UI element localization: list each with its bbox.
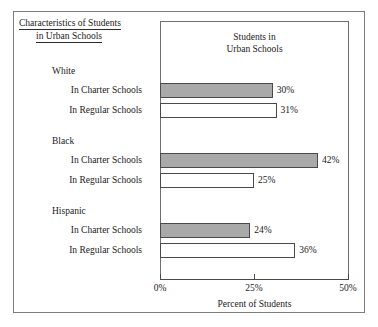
plot-heading-line-2: Urban Schools bbox=[226, 44, 282, 54]
plot-heading: Students in Urban Schools bbox=[161, 31, 348, 55]
bar-black-charter bbox=[160, 153, 318, 168]
bar-value-black-regular: 25% bbox=[258, 175, 275, 186]
bar-hispanic-charter bbox=[160, 223, 250, 238]
x-tick-50pct bbox=[348, 274, 349, 280]
bar-value-white-charter: 30% bbox=[277, 85, 294, 96]
bar-label-black-regular: In Regular Schools bbox=[69, 175, 142, 186]
x-tick-0pct bbox=[160, 274, 161, 280]
plot-area: Students in Urban Schools bbox=[160, 21, 349, 280]
group-label-hispanic: Hispanic bbox=[52, 206, 86, 217]
plot-heading-line-1: Students in bbox=[233, 32, 276, 42]
x-axis-title: Percent of Students bbox=[160, 299, 349, 310]
bar-white-regular bbox=[160, 103, 277, 118]
bar-value-white-regular: 31% bbox=[281, 105, 298, 116]
bar-label-hispanic-charter: In Charter Schools bbox=[71, 225, 142, 236]
bar-value-black-charter: 42% bbox=[322, 155, 339, 166]
group-label-black: Black bbox=[52, 136, 74, 147]
x-tick-label-50pct: 50% bbox=[339, 283, 356, 294]
bar-value-hispanic-charter: 24% bbox=[254, 225, 271, 236]
figure-title: Characteristics of Students in Urban Sch… bbox=[19, 17, 159, 43]
bar-label-white-charter: In Charter Schools bbox=[71, 85, 142, 96]
bar-label-white-regular: In Regular Schools bbox=[69, 105, 142, 116]
bar-hispanic-regular bbox=[160, 243, 295, 258]
x-tick-label-25pct: 25% bbox=[245, 283, 262, 294]
bar-white-charter bbox=[160, 83, 273, 98]
figure-title-line-2: in Urban Schools bbox=[36, 30, 102, 43]
bar-label-black-charter: In Charter Schools bbox=[71, 155, 142, 166]
x-tick-25pct bbox=[254, 274, 255, 280]
x-tick-label-0pct: 0% bbox=[154, 283, 167, 294]
figure-frame: Characteristics of Students in Urban Sch… bbox=[13, 11, 365, 313]
bar-label-hispanic-regular: In Regular Schools bbox=[69, 245, 142, 256]
figure-title-line-1: Characteristics of Students bbox=[19, 17, 121, 30]
bar-value-hispanic-regular: 36% bbox=[299, 245, 316, 256]
bar-black-regular bbox=[160, 173, 254, 188]
group-label-white: White bbox=[52, 66, 75, 77]
